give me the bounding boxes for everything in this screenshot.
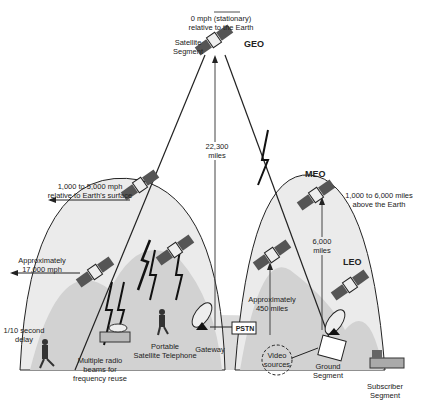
pstn-label: PSTN: [234, 324, 256, 333]
subscriber-segment-label: SubscriberSegment: [362, 382, 408, 400]
radio-beams-label: Multiple radiobeams forfrequency reuse: [70, 356, 130, 383]
satellite-diagram: 0 mph (stationary)relative to the Earth …: [0, 0, 426, 407]
subscriber-cluster-icon: [370, 350, 404, 368]
leo-speed-label: Approximately17,000 mph: [12, 256, 72, 274]
radio-beam: [258, 130, 268, 185]
geo-speed-label: 0 mph (stationary)relative to the Earth: [176, 14, 266, 32]
gateway-label: Gateway: [190, 345, 230, 354]
leo-altitude-label: Approximately450 miles: [244, 295, 300, 313]
ground-segment-label: GroundSegment: [306, 362, 350, 380]
meo-range-label: 1,000 to 6,000 milesabove the Earth: [338, 191, 420, 209]
geo-altitude-label: 22,300miles: [200, 142, 234, 160]
meo-label: MEO: [305, 170, 326, 179]
meo-speed-label: 1,000 to 5,000 mphrelative to Earth's su…: [40, 182, 140, 200]
geo-altitude-arrow: [212, 55, 218, 63]
leo-label: LEO: [343, 258, 362, 267]
geo-label: GEO: [244, 40, 264, 49]
meo-altitude-label: 6,000miles: [307, 237, 337, 255]
video-sources-label: Videosources: [262, 351, 292, 369]
satellite-segment-label: SatelliteSegment: [168, 38, 208, 56]
delay-label: 1/10 seconddelay: [2, 326, 46, 344]
